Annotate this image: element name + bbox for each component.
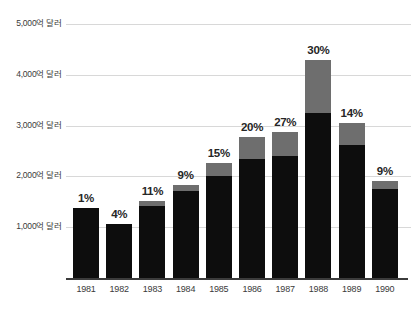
- bar-segment-top: [206, 163, 232, 176]
- bar-segment-base: [272, 156, 298, 278]
- bar-stack[interactable]: [372, 181, 398, 278]
- bar-segment-top: [372, 181, 398, 189]
- bar-stack[interactable]: [239, 137, 265, 278]
- x-axis-tick-label: 1990: [365, 284, 405, 295]
- bar-segment-top: [173, 185, 199, 192]
- bar-value-label: 14%: [329, 107, 375, 119]
- bar-chart: 1%4%11%9%15%20%27%30%14%9% 5,000억 달러4,00…: [0, 0, 418, 321]
- bar-segment-base: [106, 224, 132, 278]
- gridline: [66, 24, 411, 25]
- bar-segment-base: [206, 176, 232, 278]
- bar-segment-base: [73, 208, 99, 278]
- plot-area: 1%4%11%9%15%20%27%30%14%9%: [66, 24, 411, 278]
- gridline: [66, 75, 411, 76]
- bar-segment-top: [339, 123, 365, 146]
- bar-segment-base: [239, 159, 265, 278]
- bar-stack[interactable]: [139, 201, 165, 278]
- bar-stack[interactable]: [106, 224, 132, 278]
- bar-value-label: 9%: [362, 165, 408, 177]
- bar-segment-top: [272, 132, 298, 156]
- bar-stack[interactable]: [272, 132, 298, 278]
- y-axis-tick-label: 5,000억 달러: [0, 19, 62, 28]
- bar-segment-top: [239, 137, 265, 159]
- bar-segment-base: [139, 206, 165, 278]
- bar-segment-top: [305, 60, 331, 113]
- bar-stack[interactable]: [339, 123, 365, 278]
- y-axis-tick-label: 4,000억 달러: [0, 70, 62, 79]
- bar-value-label: 30%: [295, 44, 341, 56]
- y-axis-tick-label: 1,000억 달러: [0, 222, 62, 231]
- bar-value-label: 9%: [163, 169, 209, 181]
- bar-value-label: 4%: [96, 208, 142, 220]
- bar-stack[interactable]: [305, 60, 331, 278]
- bar-stack[interactable]: [73, 208, 99, 278]
- bar-value-label: 1%: [63, 192, 109, 204]
- bar-segment-base: [339, 145, 365, 278]
- bar-stack[interactable]: [206, 163, 232, 278]
- y-axis-tick-label: 3,000억 달러: [0, 121, 62, 130]
- bar-segment-base: [372, 189, 398, 278]
- bar-value-label: 27%: [262, 116, 308, 128]
- bar-segment-base: [305, 113, 331, 278]
- bar-segment-base: [173, 191, 199, 278]
- bar-value-label: 11%: [129, 185, 175, 197]
- bar-value-label: 15%: [196, 147, 242, 159]
- bar-stack[interactable]: [173, 185, 199, 278]
- x-axis-line: [66, 278, 408, 280]
- y-axis-tick-label: 2,000억 달러: [0, 171, 62, 180]
